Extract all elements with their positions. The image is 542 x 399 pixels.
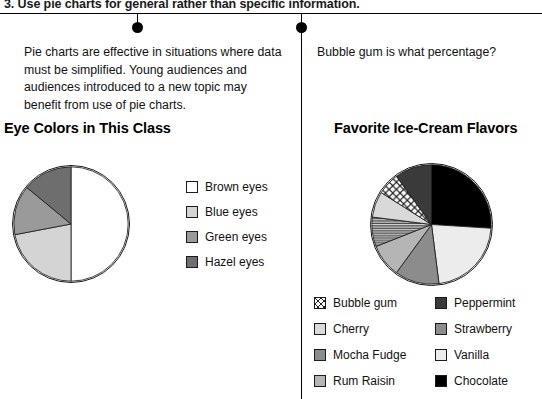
eye-colors-legend: Brown eyesBlue eyesGreen eyesHazel eyes bbox=[186, 178, 268, 278]
ice-cream-legend-column-b: PeppermintStrawberryVanillaChocolate bbox=[435, 294, 542, 398]
vertical-divider bbox=[301, 22, 302, 399]
legend-swatch bbox=[314, 297, 326, 309]
legend-swatch bbox=[314, 349, 326, 361]
legend-item: Peppermint bbox=[435, 294, 542, 311]
legend-item-label: Vanilla bbox=[454, 348, 489, 362]
legend-item-label: Green eyes bbox=[205, 230, 267, 244]
legend-item: Cherry bbox=[314, 320, 435, 337]
legend-item-label: Blue eyes bbox=[205, 205, 258, 219]
legend-item: Rum Raisin bbox=[314, 372, 435, 389]
legend-swatch bbox=[314, 375, 326, 387]
pie-slice bbox=[71, 167, 128, 281]
pie-slice bbox=[432, 225, 492, 284]
legend-swatch bbox=[435, 323, 447, 335]
ice-cream-flavors-pie-chart bbox=[370, 163, 493, 286]
ice-cream-legend: Bubble gumCherryMocha FudgeRum Raisin Pe… bbox=[314, 294, 542, 398]
legend-item: Chocolate bbox=[435, 372, 542, 389]
eye-colors-pie-chart bbox=[12, 165, 130, 283]
legend-swatch bbox=[435, 297, 447, 309]
callout-bullet-right bbox=[296, 22, 307, 33]
legend-swatch bbox=[435, 375, 447, 387]
legend-item-label: Bubble gum bbox=[333, 296, 397, 310]
legend-item-label: Cherry bbox=[333, 322, 369, 336]
legend-swatch bbox=[435, 349, 447, 361]
legend-item-label: Brown eyes bbox=[205, 180, 268, 194]
legend-item-label: Peppermint bbox=[454, 296, 515, 310]
legend-item: Blue eyes bbox=[186, 203, 268, 220]
legend-swatch bbox=[186, 231, 198, 243]
right-chart-title: Favorite Ice-Cream Flavors bbox=[334, 120, 518, 136]
pie-slice bbox=[432, 165, 492, 228]
horizontal-divider bbox=[0, 13, 542, 14]
legend-item-label: Chocolate bbox=[454, 374, 508, 388]
legend-swatch bbox=[186, 256, 198, 268]
legend-swatch bbox=[314, 323, 326, 335]
callout-bullet-left bbox=[132, 22, 143, 33]
legend-item: Mocha Fudge bbox=[314, 346, 435, 363]
left-paragraph: Pie charts are effective in situations w… bbox=[24, 44, 286, 114]
page-heading: 3. Use pie charts for general rather tha… bbox=[4, 0, 360, 11]
ice-cream-legend-column-a: Bubble gumCherryMocha FudgeRum Raisin bbox=[314, 294, 435, 398]
legend-item-label: Rum Raisin bbox=[333, 374, 395, 388]
right-paragraph: Bubble gum is what percentage? bbox=[317, 44, 532, 62]
legend-swatch bbox=[186, 206, 198, 218]
legend-item: Brown eyes bbox=[186, 178, 268, 195]
legend-item-label: Strawberry bbox=[454, 322, 512, 336]
legend-item: Hazel eyes bbox=[186, 253, 268, 270]
legend-item: Strawberry bbox=[435, 320, 542, 337]
legend-item: Bubble gum bbox=[314, 294, 435, 311]
legend-swatch bbox=[186, 181, 198, 193]
legend-item-label: Mocha Fudge bbox=[333, 348, 406, 362]
left-chart-title: Eye Colors in This Class bbox=[4, 120, 171, 136]
legend-item: Green eyes bbox=[186, 228, 268, 245]
legend-item-label: Hazel eyes bbox=[205, 255, 264, 269]
page-root: 3. Use pie charts for general rather tha… bbox=[0, 0, 542, 399]
legend-item: Vanilla bbox=[435, 346, 542, 363]
